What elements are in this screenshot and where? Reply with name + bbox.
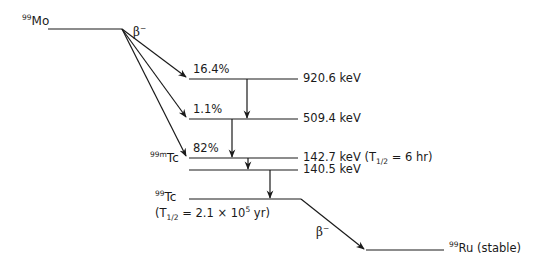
- parent-beta-label: β−: [133, 26, 146, 38]
- level-energy-509: 509.4 keV: [303, 113, 361, 125]
- decay-scheme-diagram: 99Mo β− 16.4% 1.1% 82% 920.6 keV 509.4 k…: [0, 0, 539, 267]
- branch-percent-142: 82%: [193, 143, 219, 155]
- branch-percent-509: 1.1%: [193, 104, 222, 116]
- decay-scheme-lines: [0, 0, 539, 267]
- branch-percent-920: 16.4%: [193, 64, 230, 76]
- beta-branch-arrow-142: [122, 29, 186, 156]
- tc99m-label: 99mTc: [150, 152, 179, 164]
- ru99-symbol: Ru: [459, 241, 474, 255]
- beta-branch-arrow-509: [122, 29, 186, 117]
- tc99-label: 99Tc: [155, 191, 176, 203]
- level-energy-920: 920.6 keV: [303, 73, 361, 85]
- tc99-halflife: (T1/2 = 2.1 × 105 yr): [155, 208, 270, 220]
- ru99-mass-number: 99: [449, 240, 459, 249]
- beta-branch-arrow-920: [122, 29, 186, 77]
- tc99m-symbol: Tc: [167, 151, 179, 165]
- level-energy-140: 140.5 keV: [303, 164, 361, 176]
- mo99-mass-number: 99: [22, 13, 32, 22]
- ground-beta-label: β−: [316, 226, 329, 238]
- ru99-label: 99Ru (stable): [449, 243, 521, 255]
- tc99-symbol: Tc: [165, 190, 177, 204]
- tc99m-mass-number: 99m: [150, 150, 167, 159]
- mo99-label: 99Mo: [22, 15, 49, 27]
- mo99-symbol: Mo: [32, 14, 50, 28]
- ru99-note: (stable): [473, 241, 521, 255]
- tc99-beta-arrow: [301, 199, 364, 249]
- tc99-mass-number: 99: [155, 189, 165, 198]
